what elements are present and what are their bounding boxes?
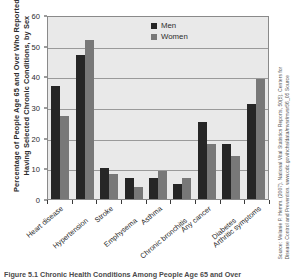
legend-label-women: Women [161, 31, 188, 42]
plot-canvas [47, 16, 269, 200]
bar-group [219, 17, 243, 199]
y-tick-label: 60 [32, 12, 40, 21]
bar-women [158, 171, 167, 199]
y-axis-ticks: 0102030405060 [26, 16, 44, 200]
bar-men [173, 184, 182, 199]
bar-groups [48, 17, 268, 199]
y-tick-label: 20 [32, 134, 40, 143]
figure-caption: Figure 5.1 Chronic Health Conditions Amo… [4, 270, 272, 279]
x-axis-labels: Heart diseaseHypertensionStrokeEmphysema… [26, 204, 269, 274]
x-tick-label: Stroke [92, 204, 114, 224]
bar-women [256, 79, 265, 199]
y-tick-label: 30 [32, 104, 40, 113]
x-tick-label: Asthma [139, 204, 164, 227]
bar-men [51, 86, 60, 199]
bar-women [207, 144, 216, 199]
source-note-line2: Disease Control and Prevention. www.cdc.… [284, 10, 291, 260]
bar-men [76, 55, 85, 199]
y-tick-label: 50 [32, 42, 40, 51]
plot-area: 0102030405060 Heart diseaseHypertensionS… [26, 16, 269, 216]
source-note: Source: Melanie P. Hemm. (2007). Nationa… [277, 10, 290, 260]
y-tick-label: 40 [32, 73, 40, 82]
bar-men [222, 144, 231, 199]
bar-women [231, 156, 240, 199]
bar-men [198, 122, 207, 199]
legend-label-men: Men [161, 20, 176, 31]
bar-men [247, 104, 256, 199]
bar-group [97, 17, 121, 199]
bar-group [72, 17, 96, 199]
legend-item-men: Men [151, 20, 188, 31]
bar-group [146, 17, 170, 199]
x-tick-label: Emphysema [102, 216, 139, 249]
y-tick-label: 10 [32, 165, 40, 174]
legend-swatch-women-icon [151, 34, 157, 40]
bar-women [182, 178, 191, 199]
legend-swatch-men-icon [151, 23, 157, 29]
legend: Men Women [151, 20, 188, 42]
bar-women [85, 40, 94, 199]
source-note-line1: Source: Melanie P. Hemm. (2007). Nationa… [277, 10, 284, 260]
bar-men [100, 168, 109, 199]
bar-group [195, 17, 219, 199]
bar-group [244, 17, 268, 199]
bar-women [109, 174, 118, 199]
bar-group [121, 17, 145, 199]
bar-women [134, 187, 143, 199]
bar-men [149, 178, 158, 199]
bar-women [60, 116, 69, 199]
bar-group [170, 17, 194, 199]
x-tick-label: Hypertension [51, 216, 90, 251]
x-tick-label: Heart disease [25, 204, 65, 240]
bar-group [48, 17, 72, 199]
y-axis-label-line1: Percentage of People Age 65 and Over Who… [12, 0, 22, 192]
x-tick-mark [269, 200, 270, 204]
bar-men [125, 178, 134, 199]
legend-item-women: Women [151, 31, 188, 42]
